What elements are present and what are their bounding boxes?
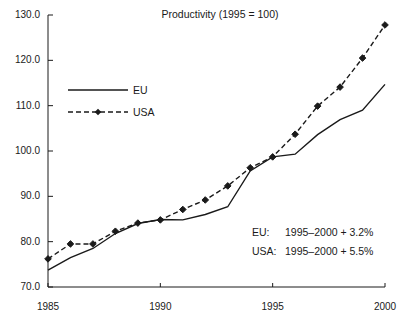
x-tick-label: 1995	[249, 301, 297, 312]
y-tick-label: 90.0	[0, 190, 40, 201]
annotation-eu-text: 1995–2000 + 3.2%	[285, 226, 373, 238]
y-axis-ticks	[48, 15, 53, 287]
data-point-marker-usa	[180, 206, 187, 213]
data-point-marker-usa	[135, 220, 142, 227]
annotation-usa-growth: USA:1995–2000 + 5.5%	[252, 245, 373, 257]
data-point-marker-usa	[112, 228, 119, 235]
annotation-usa-text: 1995–2000 + 5.5%	[285, 245, 373, 257]
annotation-usa-key: USA:	[252, 245, 285, 257]
legend-glyph-group	[68, 90, 128, 115]
x-tick-label: 2000	[361, 301, 399, 312]
data-point-marker-usa	[269, 154, 276, 161]
legend-item-label-eu: EU	[133, 84, 148, 96]
data-point-marker-usa	[382, 22, 389, 29]
y-tick-label: 110.0	[0, 100, 40, 111]
x-tick-label: 1985	[24, 301, 72, 312]
legend-item-label-usa: USA	[133, 106, 155, 118]
y-tick-label: 100.0	[0, 145, 40, 156]
y-tick-label: 120.0	[0, 54, 40, 65]
annotation-eu-key: EU:	[252, 226, 285, 238]
x-tick-label: 1990	[136, 301, 184, 312]
x-axis-ticks	[48, 283, 385, 287]
series-line-usa	[48, 25, 385, 259]
productivity-line-chart: Productivity (1995 = 100) 70.080.090.010…	[0, 0, 399, 323]
y-tick-label: 80.0	[0, 236, 40, 247]
data-point-marker-usa	[67, 241, 74, 248]
chart-plot-area	[0, 0, 399, 323]
legend-marker-usa	[95, 109, 102, 116]
annotation-eu-growth: EU:1995–2000 + 3.2%	[252, 226, 373, 238]
y-tick-label: 70.0	[0, 281, 40, 292]
y-tick-label: 130.0	[0, 9, 40, 20]
data-point-marker-usa	[202, 197, 209, 204]
data-point-marker-usa	[157, 217, 164, 224]
